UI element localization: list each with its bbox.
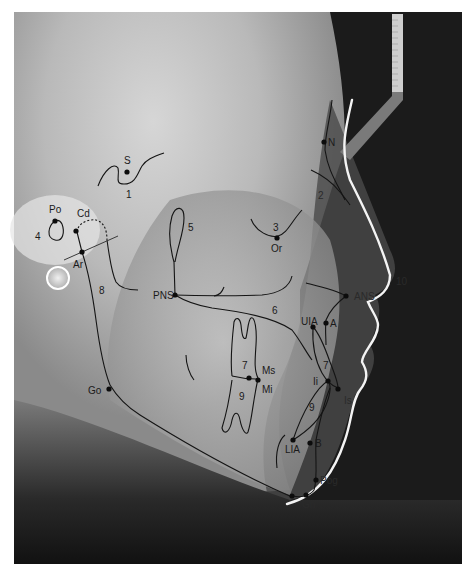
label-structure-9-molar: 9	[239, 391, 245, 402]
point-Po	[52, 218, 57, 223]
label-structure-3: 3	[273, 222, 279, 233]
label-structure-10: 10	[396, 276, 408, 287]
label-structure-4: 4	[35, 231, 41, 242]
label-Go: Go	[88, 385, 102, 396]
label-Mi: Mi	[262, 384, 273, 395]
point-Pog	[313, 477, 318, 482]
cephalometric-radiograph: S N Po Cd Ar Or PNS ANS A UIA Ms Mi Ii I…	[0, 0, 474, 584]
point-A	[323, 320, 328, 325]
label-structure-5: 5	[188, 222, 194, 233]
point-Mi	[255, 377, 260, 382]
label-Po: Po	[49, 204, 62, 215]
label-Pog: Pog	[320, 475, 338, 486]
point-Is	[335, 386, 340, 391]
label-PNS: PNS	[153, 290, 174, 301]
point-Cd	[73, 228, 78, 233]
point-Or	[274, 235, 279, 240]
point-Go	[106, 386, 111, 391]
label-structure-9-incisor: 9	[309, 402, 315, 413]
label-structure-7-incisor: 7	[323, 360, 329, 371]
point-B	[307, 440, 312, 445]
label-Ms: Ms	[262, 365, 275, 376]
label-structure-8: 8	[99, 285, 105, 296]
label-structure-2: 2	[318, 190, 324, 201]
label-Or: Or	[271, 243, 283, 254]
label-LIA: LIA	[285, 444, 300, 455]
label-B: B	[315, 438, 322, 449]
point-LIA	[290, 437, 295, 442]
film-margin-bottom	[0, 564, 474, 584]
label-structure-6: 6	[272, 305, 278, 316]
point-N	[321, 139, 326, 144]
label-structure-1: 1	[126, 189, 132, 200]
label-Is: Is	[344, 395, 352, 406]
label-ANS: ANS	[354, 291, 375, 302]
point-Me	[289, 493, 294, 498]
ear-rod-ring	[47, 267, 69, 289]
label-S: S	[124, 155, 131, 166]
point-Ms	[246, 375, 251, 380]
label-A: A	[330, 318, 337, 329]
point-Ar	[79, 249, 84, 254]
point-Gn	[303, 492, 308, 497]
point-ANS	[343, 293, 348, 298]
label-Cd: Cd	[77, 208, 90, 219]
label-N: N	[328, 137, 335, 148]
label-UIA: UIA	[301, 316, 318, 327]
point-Ii	[325, 378, 330, 383]
label-Gn: Gn	[302, 499, 315, 510]
label-Ar: Ar	[73, 259, 84, 270]
label-structure-7-molar: 7	[242, 360, 248, 371]
point-S	[124, 169, 129, 174]
label-Ii: Ii	[313, 376, 318, 387]
